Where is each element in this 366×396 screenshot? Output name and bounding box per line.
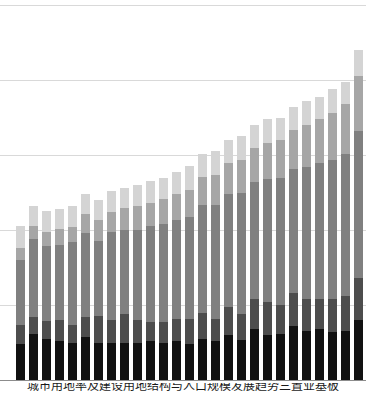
bar-segment-series-5 — [172, 172, 181, 195]
bar-segment-series-4 — [341, 104, 350, 154]
bar-segment-series-1 — [94, 343, 103, 381]
bar-segment-series-3 — [198, 205, 207, 313]
bar-segment-series-1 — [68, 343, 77, 381]
bar-segment-series-2 — [237, 314, 246, 340]
bar-segment-series-5 — [211, 151, 220, 175]
bar-9 — [120, 188, 129, 380]
bar-segment-series-1 — [159, 343, 168, 381]
bar-18 — [237, 136, 246, 381]
bar-segment-series-4 — [107, 212, 116, 232]
bar-segment-series-4 — [315, 119, 324, 163]
bar-segment-series-5 — [198, 154, 207, 177]
bar-19 — [250, 125, 259, 380]
bar-segment-series-4 — [237, 160, 246, 193]
bar-segment-series-4 — [185, 190, 194, 217]
bar-segment-series-3 — [146, 226, 155, 322]
bar-segment-series-2 — [159, 322, 168, 343]
bar-segment-series-2 — [341, 296, 350, 331]
bar-segment-series-3 — [81, 233, 90, 317]
bar-segment-series-1 — [237, 340, 246, 381]
bar-segment-series-2 — [16, 325, 25, 345]
bar-segment-series-2 — [315, 299, 324, 329]
bar-segment-series-2 — [42, 321, 51, 339]
chart-caption-text: 城市用地率及建设用地结构与人口规模发展趋势三置业基板 — [27, 383, 339, 393]
bar-25 — [328, 89, 337, 380]
bar-segment-series-4 — [159, 199, 168, 225]
bar-segment-series-2 — [185, 319, 194, 345]
bar-segment-series-2 — [263, 302, 272, 335]
bar-13 — [172, 172, 181, 381]
bar-segment-series-3 — [237, 193, 246, 315]
bar-segment-series-1 — [263, 335, 272, 380]
bar-segment-series-3 — [172, 220, 181, 319]
bar-segment-series-5 — [302, 101, 311, 125]
bar-6 — [81, 194, 90, 380]
bar-segment-series-4 — [16, 248, 25, 260]
bar-segment-series-4 — [263, 143, 272, 179]
bar-segment-series-2 — [302, 299, 311, 331]
bar-segment-series-4 — [172, 194, 181, 220]
bar-24 — [315, 97, 324, 381]
bar-segment-series-4 — [120, 208, 129, 231]
bar-segment-series-1 — [133, 343, 142, 381]
bar-segment-series-4 — [302, 125, 311, 167]
bar-segment-series-3 — [120, 230, 129, 314]
bar-segment-series-1 — [146, 341, 155, 380]
bar-segment-series-1 — [107, 343, 116, 381]
bar-segment-series-4 — [94, 220, 103, 241]
bar-7 — [94, 200, 103, 380]
bar-segment-series-1 — [81, 337, 90, 381]
bar-segment-series-4 — [55, 229, 64, 246]
bar-segment-series-4 — [328, 113, 337, 160]
bar-segment-series-5 — [328, 89, 337, 113]
bar-segment-series-4 — [68, 227, 77, 242]
bar-segment-series-1 — [29, 334, 38, 381]
bar-segment-series-4 — [289, 130, 298, 169]
bar-segment-series-5 — [289, 107, 298, 130]
bar-segment-series-3 — [354, 131, 363, 278]
bar-21 — [276, 118, 285, 381]
bar-segment-series-5 — [107, 191, 116, 212]
bar-12 — [159, 178, 168, 381]
bar-segment-series-1 — [341, 331, 350, 381]
bar-5 — [68, 206, 77, 380]
bar-segment-series-5 — [68, 206, 77, 227]
bar-segment-series-3 — [42, 246, 51, 321]
bar-14 — [185, 166, 194, 381]
bar-segment-series-2 — [328, 299, 337, 332]
bar-segment-series-2 — [198, 313, 207, 339]
bar-27 — [354, 50, 363, 380]
bar-23 — [302, 101, 311, 380]
bar-segment-series-1 — [289, 326, 298, 380]
bar-segment-series-4 — [276, 140, 285, 178]
bar-segment-series-3 — [185, 217, 194, 319]
bar-segment-series-4 — [29, 226, 38, 240]
bar-segment-series-3 — [263, 179, 272, 302]
bar-segment-series-4 — [211, 175, 220, 205]
bar-segment-series-2 — [29, 317, 38, 334]
bar-segment-series-5 — [250, 125, 259, 148]
bar-segment-series-4 — [42, 232, 51, 246]
bar-segment-series-3 — [29, 239, 38, 317]
bar-segment-series-4 — [146, 203, 155, 226]
bar-segment-series-4 — [224, 163, 233, 195]
bar-17 — [224, 140, 233, 380]
bar-segment-series-5 — [16, 226, 25, 249]
chart-caption: 城市用地率及建设用地结构与人口规模发展趋势三置业基板 — [0, 383, 366, 396]
bar-segment-series-1 — [55, 341, 64, 380]
stacked-bar-chart-figure: 城市用地率及建设用地结构与人口规模发展趋势三置业基板 — [0, 0, 366, 396]
bar-segment-series-1 — [42, 339, 51, 380]
bar-segment-series-5 — [55, 209, 64, 229]
bar-3 — [42, 211, 51, 380]
bar-segment-series-2 — [68, 325, 77, 343]
bar-segment-series-5 — [354, 50, 363, 76]
bar-segment-series-5 — [81, 194, 90, 214]
bar-segment-series-5 — [120, 188, 129, 208]
bar-segment-series-2 — [211, 319, 220, 342]
bar-segment-series-5 — [42, 211, 51, 232]
bar-segment-series-5 — [224, 140, 233, 163]
bar-8 — [107, 191, 116, 380]
bar-segment-series-2 — [55, 320, 64, 341]
bar-segment-series-3 — [315, 163, 324, 300]
bar-segment-series-2 — [81, 317, 90, 337]
